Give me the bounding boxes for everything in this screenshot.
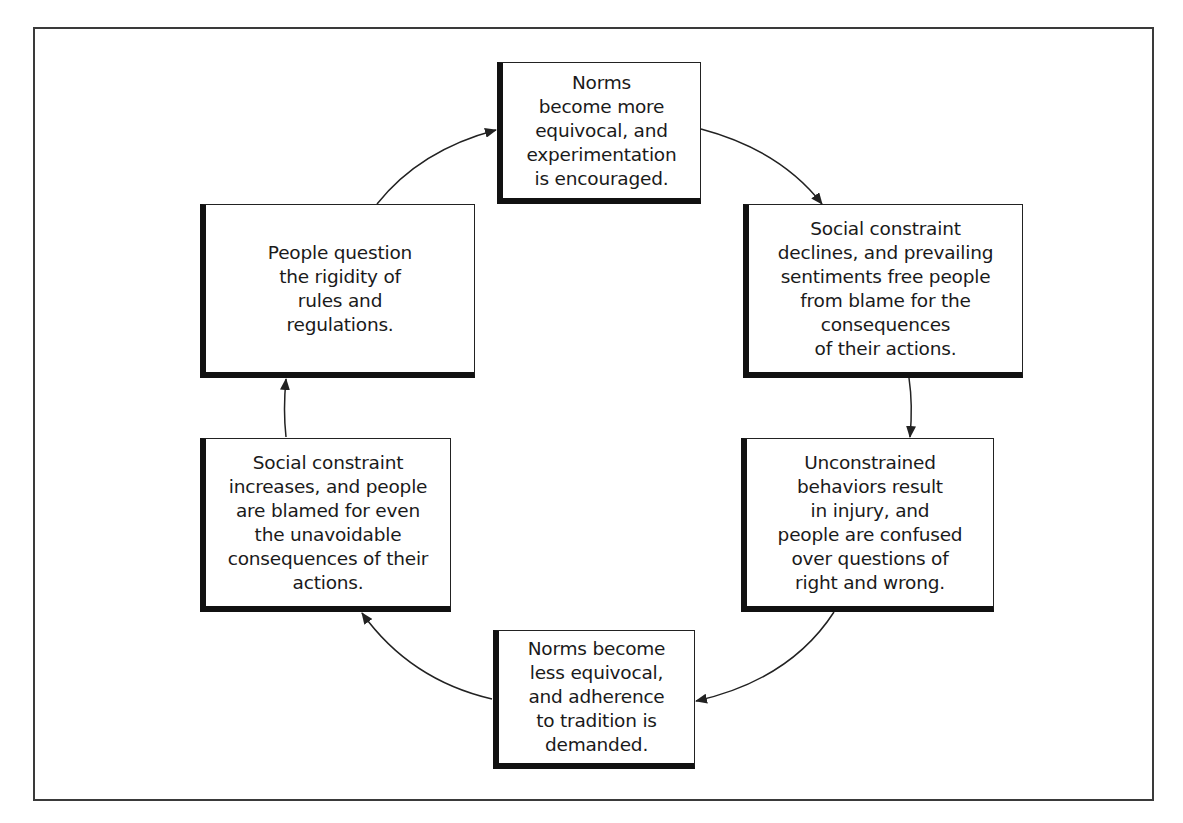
node-top-left: People question the rigidity of rules an… bbox=[200, 204, 475, 378]
node-top-text: Norms become more equivocal, and experim… bbox=[526, 71, 676, 191]
arrow-bottomright-to-bottom bbox=[696, 612, 834, 701]
node-top-right: Social constraint declines, and prevaili… bbox=[743, 204, 1023, 378]
node-bottom-right-text: Unconstrained behaviors result in injury… bbox=[778, 451, 963, 595]
node-bottom-text: Norms become less equivocal, and adheren… bbox=[528, 637, 666, 757]
arrow-topleft-to-top bbox=[377, 130, 496, 204]
node-top-left-text: People question the rigidity of rules an… bbox=[268, 241, 412, 337]
node-top: Norms become more equivocal, and experim… bbox=[497, 62, 701, 204]
arrow-top-to-topright bbox=[701, 129, 822, 204]
arrow-bottomleft-to-topleft bbox=[285, 379, 287, 437]
node-bottom-right: Unconstrained behaviors result in injury… bbox=[741, 438, 994, 612]
node-bottom-left: Social constraint increases, and people … bbox=[200, 438, 451, 612]
node-top-right-text: Social constraint declines, and prevaili… bbox=[778, 217, 993, 361]
arrow-topright-to-bottomright bbox=[909, 378, 911, 437]
node-bottom-left-text: Social constraint increases, and people … bbox=[228, 451, 429, 595]
arrow-bottom-to-bottomleft bbox=[362, 613, 492, 699]
node-bottom: Norms become less equivocal, and adheren… bbox=[493, 630, 695, 769]
